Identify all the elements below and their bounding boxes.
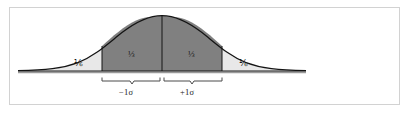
axis-label-minus-1-sigma: −1σ [119,88,133,97]
brace-plus-1-sigma [164,78,222,85]
region-label-outer-left: ⅙ [74,59,83,68]
region-label-inner-left: ⅓ [128,50,135,59]
bell-curve-figure: ⅙ ⅓ ⅓ ⅙ −1σ +1σ [0,0,410,114]
axis-label-plus-1-sigma: +1σ [180,88,194,97]
distribution-plot [0,0,410,114]
region-label-inner-right: ⅓ [188,50,195,59]
region-label-outer-right: ⅙ [239,59,248,68]
brace-minus-1-sigma [102,78,160,85]
